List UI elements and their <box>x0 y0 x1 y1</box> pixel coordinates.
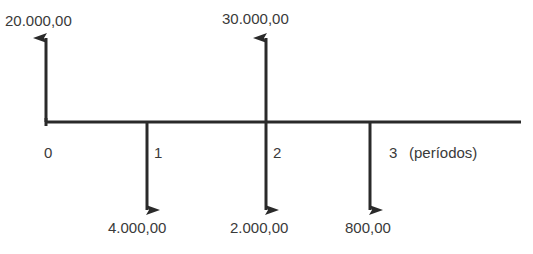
axis-unit-label: (períodos) <box>409 144 477 161</box>
period-label-3: 3 <box>389 144 397 161</box>
outflow-amount-period-3: 800,00 <box>345 219 391 236</box>
inflow-amount-period-0: 20.000,00 <box>5 12 72 29</box>
period-label-0: 0 <box>44 144 52 161</box>
outflow-amount-period-2: 2.000,00 <box>230 219 288 236</box>
period-label-2: 2 <box>273 144 281 161</box>
period-label-1: 1 <box>154 144 162 161</box>
outflow-amount-period-1: 4.000,00 <box>108 219 166 236</box>
inflow-amount-period-2: 30.000,00 <box>222 10 289 27</box>
cash-flow-diagram: 20.000,00 30.000,00 0 1 2 3 (períodos) 4… <box>0 0 533 254</box>
